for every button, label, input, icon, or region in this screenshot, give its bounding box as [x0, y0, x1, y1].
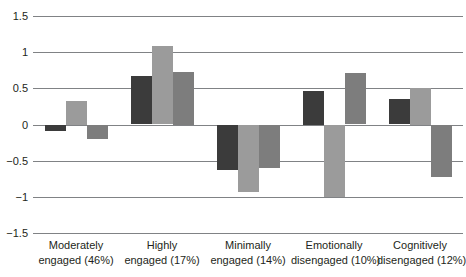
x-category-label-line1: Minimally	[205, 238, 291, 253]
x-category-label: Highlyengaged (17%)	[119, 238, 205, 268]
bar	[152, 46, 173, 124]
x-category-label-line1: Cognitively	[377, 238, 463, 253]
x-category-label-line2: engaged (14%)	[205, 253, 291, 268]
x-category-label-line2: disengaged (10%)	[291, 253, 377, 268]
y-tick-label: 1.5	[0, 10, 28, 22]
bar	[45, 125, 66, 131]
x-axis-category-labels: Moderatelyengaged (46%)Highlyengaged (17…	[33, 238, 463, 277]
bar	[345, 73, 366, 124]
bar	[389, 99, 410, 124]
x-category-label: Minimallyengaged (14%)	[205, 238, 291, 268]
bar	[131, 76, 152, 124]
bar	[431, 125, 452, 177]
gridline-neg1.5	[33, 233, 463, 234]
y-tick-label: −1	[0, 191, 28, 203]
plot-area	[33, 16, 463, 233]
x-category-label-line1: Highly	[119, 238, 205, 253]
x-category-label-line2: engaged (17%)	[119, 253, 205, 268]
bar-chart: 1.510.50−0.5−1−1.5 Moderatelyengaged (46…	[0, 0, 466, 277]
bar	[303, 91, 324, 125]
x-category-label: Emotionallydisengaged (10%)	[291, 238, 377, 268]
x-category-label: Moderatelyengaged (46%)	[33, 238, 119, 268]
y-tick-label: −1.5	[0, 227, 28, 239]
bar	[87, 125, 108, 139]
y-tick-label: 0	[0, 119, 28, 131]
x-category-label-line1: Moderately	[33, 238, 119, 253]
bar	[238, 125, 259, 192]
bar	[410, 88, 431, 125]
bar	[217, 125, 238, 170]
bar	[259, 125, 280, 168]
bar	[173, 72, 194, 125]
x-category-label-line1: Emotionally	[291, 238, 377, 253]
bar	[324, 125, 345, 197]
x-category-label-line2: engaged (46%)	[33, 253, 119, 268]
x-category-label: Cognitivelydisengaged (12%)	[377, 238, 463, 268]
y-tick-label: 1	[0, 46, 28, 58]
y-tick-label: 0.5	[0, 82, 28, 94]
bar	[66, 101, 87, 125]
y-tick-label: −0.5	[0, 155, 28, 167]
bars-layer	[33, 16, 463, 233]
y-axis-tick-labels: 1.510.50−0.5−1−1.5	[0, 16, 28, 233]
x-category-label-line2: disengaged (12%)	[377, 253, 463, 268]
